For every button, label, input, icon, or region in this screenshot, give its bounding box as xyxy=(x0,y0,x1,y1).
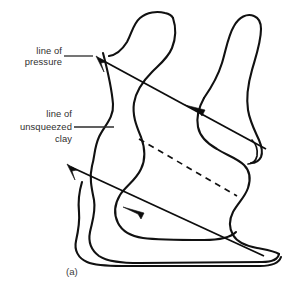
clay-boundary-curve-1 xyxy=(89,53,279,263)
pressure-line-lower xyxy=(71,167,264,256)
pressure-line-upper xyxy=(100,59,266,149)
label-unsqueezed-clay-line2: unsqueezed xyxy=(20,121,72,132)
label-unsqueezed-clay-line3: clay xyxy=(55,133,72,144)
label-line-of-pressure-line1: line of xyxy=(36,45,62,56)
clay-boundary-curve-2b xyxy=(115,18,236,240)
arrow-head-lower-tip xyxy=(67,164,77,180)
clay-boundary-curve-3 xyxy=(204,15,261,98)
clay-boundary-curve-2 xyxy=(109,12,173,56)
clay-boundary-curve-5 xyxy=(75,182,281,266)
figure-container: line of pressure line of unsqueezed clay… xyxy=(0,0,289,293)
label-line-of-pressure-line2: pressure xyxy=(25,56,62,67)
figure-caption: (a) xyxy=(66,266,78,277)
arrow-head-lower-mid xyxy=(123,207,144,219)
unsqueezed-clay-dashed-line xyxy=(139,139,237,196)
label-unsqueezed-clay-line1: line of xyxy=(46,108,72,119)
clay-pressure-diagram: line of pressure line of unsqueezed clay… xyxy=(0,0,289,293)
